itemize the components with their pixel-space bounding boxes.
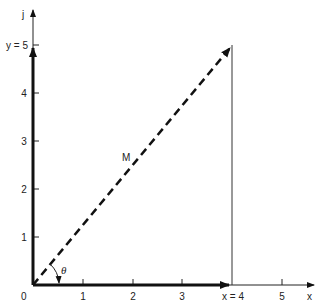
- angle-arc: [50, 264, 59, 283]
- y-tick-label-2: 2: [21, 184, 27, 195]
- x-axis-label: x: [307, 291, 312, 302]
- x-tick-label-5: 5: [279, 291, 285, 302]
- y-tick-label-1: 1: [21, 232, 27, 243]
- y-tick-label-3: 3: [21, 136, 27, 147]
- x-tick-label-4: x = 4: [222, 291, 244, 302]
- x-tick-label-2: 2: [130, 291, 136, 302]
- angle-label-theta: θ: [61, 264, 67, 276]
- vector-label-m: M: [122, 152, 130, 163]
- x-tick-label-3: 3: [179, 291, 185, 302]
- resultant-vector-m: [33, 48, 230, 285]
- x-tick-label-1: 1: [80, 291, 86, 302]
- y-tick-label-5: y = 5: [6, 40, 28, 51]
- vector-diagram: j x 0 1 2 3 4 y = 5 1 2 3 x = 4 5 M θ: [0, 0, 323, 307]
- y-axis-label: j: [21, 9, 24, 20]
- y-tick-label-4: 4: [21, 88, 27, 99]
- origin-label: 0: [21, 291, 27, 302]
